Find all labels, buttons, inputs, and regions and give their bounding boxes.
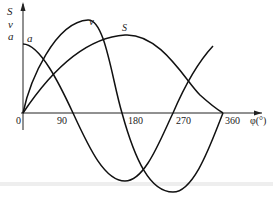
tick-270: 270: [176, 116, 191, 126]
y-axis-arrow-icon: [21, 2, 26, 11]
tick-360: 360: [225, 116, 240, 126]
curve-label-v: v: [89, 16, 94, 27]
y-axis-label-v: v: [8, 19, 13, 30]
tick-0: 0: [16, 116, 21, 126]
y-axis-label-S: S: [7, 6, 13, 17]
tick-180: 180: [128, 116, 143, 126]
motion-curves-chart: [0, 0, 273, 197]
curve-v: [23, 20, 223, 192]
curve-label-S: S: [122, 23, 127, 33]
tick-90: 90: [57, 116, 67, 126]
y-axis-label-a: a: [8, 31, 14, 42]
curve-label-a: a: [27, 33, 33, 44]
x-axis-label: φ(°): [250, 116, 266, 126]
